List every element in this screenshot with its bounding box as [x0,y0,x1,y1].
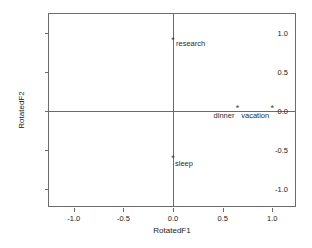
x-tick [223,208,224,212]
y-tick-label: -0.5 [275,145,288,154]
plot-area: *research*dinner*vacation*sleep -1.0-0.5… [48,13,296,207]
x-tick-label: 0.0 [168,214,178,223]
y-tick [45,111,49,112]
x-tick-label: 0.5 [217,214,227,223]
asterisk-marker-icon: * [270,106,275,111]
data-point-label: vacation [241,111,269,120]
x-tick-label: 1.0 [267,214,277,223]
asterisk-marker-icon: * [171,38,176,43]
x-axis-title: RotatedF1 [48,226,296,235]
x-tick-label: -1.0 [67,214,80,223]
x-tick [173,208,174,212]
x-tick [123,208,124,212]
data-point-label: sleep [175,159,193,168]
y-tick-label: 0.0 [278,107,288,116]
x-tick [272,208,273,212]
data-point-label: dinner [214,111,235,120]
x-tick [74,208,75,212]
y-tick [45,150,49,151]
y-tick [45,189,49,190]
y-axis-title: RotatedF2 [17,91,26,128]
y-tick-label: 0.5 [278,68,288,77]
scatter-plot-figure: *research*dinner*vacation*sleep -1.0-0.5… [0,0,312,248]
asterisk-marker-icon: * [235,106,240,111]
y-tick-label: 1.0 [278,29,288,38]
y-tick-label: -1.0 [275,184,288,193]
y-tick [45,72,49,73]
x-tick-label: -0.5 [117,214,130,223]
y-tick [45,33,49,34]
data-point-label: research [176,39,205,48]
